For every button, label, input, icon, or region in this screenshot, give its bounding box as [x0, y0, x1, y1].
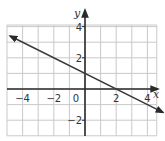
series [10, 36, 163, 112]
y-axis-label: y [73, 7, 81, 20]
x-axis-label: x [153, 88, 160, 101]
y-tick-label: 4 [76, 22, 82, 33]
y-tick-label: 2 [76, 53, 82, 64]
y-tick-label: −2 [67, 115, 82, 126]
x-tick-label: −2 [46, 93, 61, 104]
x-tick-label: −4 [15, 93, 30, 104]
series-line [10, 36, 163, 112]
coordinate-plane: −4−2024−224 x y [0, 0, 165, 141]
x-tick-label: 4 [144, 93, 150, 104]
x-tick-label: 2 [113, 93, 119, 104]
x-tick-label: 0 [73, 93, 79, 104]
